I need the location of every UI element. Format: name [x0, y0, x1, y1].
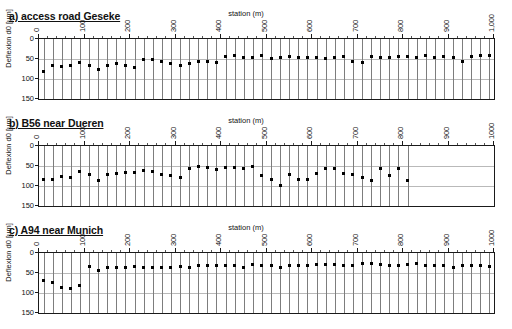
error-bar	[298, 253, 299, 313]
error-bar	[80, 39, 81, 99]
data-point	[206, 166, 209, 169]
data-point	[160, 173, 163, 176]
error-bar	[489, 253, 490, 313]
error-bar	[353, 39, 354, 99]
data-point	[324, 57, 327, 60]
data-point	[69, 176, 72, 179]
y-tick-label: 50	[26, 268, 34, 277]
y-tick-label: 50	[26, 161, 34, 170]
x-tick-label: 800	[396, 234, 405, 246]
data-point	[424, 54, 427, 57]
data-point	[88, 173, 91, 176]
data-point	[370, 179, 373, 182]
data-point	[142, 266, 145, 269]
data-point	[97, 179, 100, 182]
x-tick-label: 900	[442, 234, 451, 246]
error-bar	[280, 39, 281, 99]
data-point	[179, 176, 182, 179]
error-bar	[216, 146, 217, 206]
error-bar	[480, 253, 481, 313]
data-point	[60, 286, 63, 289]
error-bar	[326, 253, 327, 313]
error-bar	[344, 146, 345, 206]
error-bar	[307, 39, 308, 99]
x-tick-label: 400	[214, 234, 223, 246]
data-point	[306, 178, 309, 181]
panel-a-y-ticks: 050100150	[0, 38, 38, 100]
data-point	[97, 68, 100, 71]
data-point	[333, 263, 336, 266]
data-point	[197, 60, 200, 63]
data-point	[452, 266, 455, 269]
error-bar	[44, 146, 45, 206]
data-point	[215, 168, 218, 171]
data-point	[233, 166, 236, 169]
data-point	[78, 170, 81, 173]
x-tick-label: 200	[123, 20, 132, 32]
data-point	[215, 264, 218, 267]
x-tick-label: 700	[351, 234, 360, 246]
data-point	[88, 64, 91, 67]
data-point	[470, 55, 473, 58]
error-bar	[244, 146, 245, 206]
data-point	[133, 66, 136, 69]
data-point	[88, 265, 91, 268]
error-bar	[207, 39, 208, 99]
data-point	[179, 265, 182, 268]
data-point	[142, 169, 145, 172]
data-point	[297, 178, 300, 181]
data-point	[60, 175, 63, 178]
data-point	[279, 266, 282, 269]
panel-c-plot-area	[38, 252, 495, 314]
data-point	[306, 264, 309, 267]
data-point	[461, 60, 464, 63]
data-point	[379, 56, 382, 59]
data-point	[179, 64, 182, 67]
error-bar	[471, 39, 472, 99]
data-point	[297, 264, 300, 267]
error-bar	[107, 146, 108, 206]
x-tick-label: 1000	[487, 230, 496, 246]
error-bar	[317, 253, 318, 313]
data-point	[115, 266, 118, 269]
error-bar	[116, 146, 117, 206]
error-bar	[380, 146, 381, 206]
data-point	[288, 264, 291, 267]
data-point	[433, 56, 436, 59]
error-bar	[307, 146, 308, 206]
error-bar	[435, 39, 436, 99]
error-bar	[62, 39, 63, 99]
data-point	[260, 264, 263, 267]
error-bar	[362, 39, 363, 99]
data-point	[433, 264, 436, 267]
data-point	[470, 264, 473, 267]
data-point	[324, 263, 327, 266]
data-point	[133, 265, 136, 268]
x-tick-label: 1000	[487, 123, 496, 139]
data-point	[461, 264, 464, 267]
error-bar	[162, 146, 163, 206]
x-tick-label: 800	[396, 20, 405, 32]
error-bar	[471, 253, 472, 313]
data-point	[224, 264, 227, 267]
x-tick-label: 300	[169, 234, 178, 246]
data-point	[342, 172, 345, 175]
data-point	[169, 266, 172, 269]
x-tick-label: 0	[32, 242, 41, 246]
data-point	[51, 178, 54, 181]
error-bar	[135, 253, 136, 313]
data-point	[388, 264, 391, 267]
x-tick-label: 400	[214, 20, 223, 32]
panel-c: c) A94 near Munich station (m) Deflexion…	[0, 214, 512, 321]
error-bar	[153, 253, 154, 313]
error-bar	[444, 253, 445, 313]
data-point	[288, 173, 291, 176]
error-bar	[344, 253, 345, 313]
data-point	[197, 165, 200, 168]
error-bar	[125, 39, 126, 99]
error-bar	[153, 39, 154, 99]
error-bar	[216, 253, 217, 313]
data-point	[197, 264, 200, 267]
data-point	[133, 171, 136, 174]
error-bar	[198, 253, 199, 313]
